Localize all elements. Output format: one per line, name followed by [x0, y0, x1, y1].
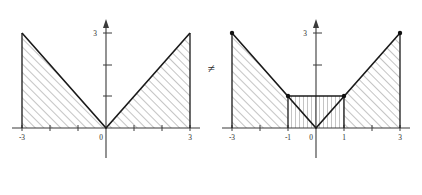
x-tick-label-1: 1 — [342, 133, 346, 142]
x-tick-label-3: 3 — [398, 133, 402, 142]
vertex-right-top — [398, 31, 402, 35]
right-panel-plot: -3 -1 0 1 3 3 — [211, 0, 422, 195]
left-panel-plot: -3 0 3 3 — [0, 0, 211, 195]
x-tick-label--1: -1 — [285, 133, 291, 142]
outer-left-region — [232, 33, 288, 128]
vertex-left-top — [230, 31, 234, 35]
left-panel-y-ticks — [103, 33, 112, 96]
outer-right-region — [344, 33, 400, 128]
comparison-figure: -3 0 3 3 ≠ — [0, 0, 422, 195]
left-panel: -3 0 3 3 — [0, 0, 211, 195]
x-tick-label-3: 3 — [188, 133, 192, 142]
vertex-left-inner — [286, 94, 290, 98]
x-tick-label--3: -3 — [19, 133, 25, 142]
right-panel: -3 -1 0 1 3 3 — [211, 0, 422, 195]
x-tick-label--3: -3 — [229, 133, 235, 142]
y-axis-arrow-icon — [313, 19, 319, 28]
right-panel-y-ticks — [313, 33, 322, 65]
vertex-right-inner — [342, 94, 346, 98]
y-tick-label-3: 3 — [93, 29, 97, 38]
y-axis-arrow-icon — [103, 19, 109, 28]
x-tick-label-0: 0 — [309, 133, 313, 142]
x-tick-label-0: 0 — [99, 133, 103, 142]
y-tick-label-3: 3 — [303, 29, 307, 38]
